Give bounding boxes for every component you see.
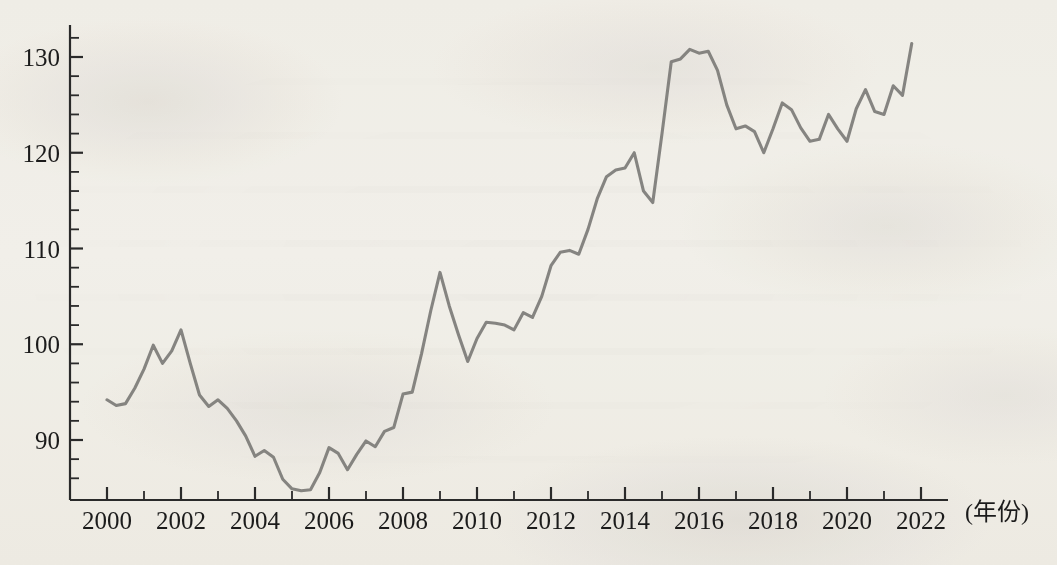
data-series-group	[107, 44, 912, 491]
x-tick-label-2006: 2006	[294, 508, 364, 533]
x-tick-label-2012: 2012	[516, 508, 586, 533]
y-tick-label-120: 120	[12, 141, 60, 166]
x-tick-label-2016: 2016	[664, 508, 734, 533]
x-tick-label-2022: 2022	[886, 508, 956, 533]
x-tick-label-2004: 2004	[220, 508, 290, 533]
y-tick-label-130: 130	[12, 45, 60, 70]
y-tick-label-100: 100	[12, 332, 60, 357]
x-tick-label-2008: 2008	[368, 508, 438, 533]
y-tick-label-90: 90	[12, 428, 60, 453]
x-tick-label-2010: 2010	[442, 508, 512, 533]
x-tick-label-2018: 2018	[738, 508, 808, 533]
chart-page: 90100110120130 2000200220042006200820102…	[0, 0, 1057, 565]
x-tick-label-2020: 2020	[812, 508, 882, 533]
x-tick-label-2014: 2014	[590, 508, 660, 533]
x-tick-label-2002: 2002	[146, 508, 216, 533]
y-tick-label-110: 110	[12, 237, 60, 262]
line-chart-plot	[0, 0, 1057, 565]
x-tick-label-2000: 2000	[72, 508, 142, 533]
x-axis-unit-label: (年份)	[965, 500, 1029, 524]
chart-axes	[70, 25, 948, 500]
